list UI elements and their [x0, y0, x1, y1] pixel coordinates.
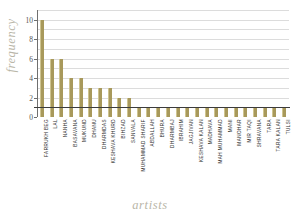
x-axis-category-label: MIR TAQI — [247, 119, 252, 143]
bar — [69, 78, 73, 117]
x-axis-category-label: BIHZAD — [121, 119, 126, 139]
x-axis-title: artists — [0, 198, 300, 213]
y-axis-title: frequency — [4, 11, 19, 81]
x-axis-category-label: BHURA — [160, 119, 165, 137]
x-axis-category-label: MUHAMMAD SHARIF — [141, 119, 146, 171]
y-axis-tick-label: 4 — [29, 74, 33, 83]
x-axis-category-label: MAH MUHAMMAD — [218, 119, 223, 163]
bars-group — [37, 10, 289, 117]
bar — [137, 107, 141, 117]
bar — [263, 107, 267, 117]
x-axis-category-label: TULSI — [286, 119, 291, 134]
y-axis-tick-mark — [34, 98, 37, 99]
x-axis-category-label: BASAVANA — [73, 119, 78, 147]
y-axis-tick-label: 10 — [26, 15, 34, 24]
plot-area: 0246810 — [37, 10, 289, 117]
y-axis-tick-mark — [34, 78, 37, 79]
x-axis-category-label: IBRAHIM — [179, 119, 184, 141]
bar — [88, 88, 92, 117]
x-axis-category-label: DHARMBAJ — [170, 119, 175, 148]
bar — [98, 88, 102, 117]
x-axis-category-label: NANHA — [63, 119, 68, 137]
bar — [40, 20, 44, 117]
y-axis-tick-label: 8 — [29, 35, 33, 44]
x-axis-category-label: MUKUND — [82, 119, 87, 142]
x-axis-category-label: JAGJIVAN — [189, 119, 194, 144]
x-axis-category-label: MANI — [228, 119, 233, 132]
x-axis-category-label: DHANU — [92, 119, 97, 138]
bar — [59, 59, 63, 117]
y-axis-tick-mark — [34, 59, 37, 60]
y-axis-tick-label: 6 — [29, 54, 33, 63]
x-axis-category-label: DHARMDAS — [102, 119, 107, 149]
bar — [79, 78, 83, 117]
x-axis-category-label: LAL — [53, 119, 58, 129]
bar — [272, 107, 276, 117]
bar — [146, 107, 150, 117]
x-axis-category-label: KESHAVA KHURD — [111, 119, 116, 163]
y-axis-tick-mark — [34, 20, 37, 21]
x-axis-category-label: SANVALA — [131, 119, 136, 143]
bar — [185, 107, 189, 117]
bar — [224, 107, 228, 117]
bar — [234, 107, 238, 117]
y-axis-tick-mark — [34, 117, 37, 118]
x-axis-category-label: MANOHAR — [237, 119, 242, 146]
y-axis-tick-label: 0 — [29, 113, 33, 122]
x-axis-category-label: KESHAVA KALAN — [199, 119, 204, 162]
bar — [282, 107, 286, 117]
bar — [205, 107, 209, 117]
bar — [195, 107, 199, 117]
y-axis-tick-label: 2 — [29, 93, 33, 102]
x-axis-category-label: TARA — [267, 119, 272, 133]
bar — [156, 107, 160, 117]
x-axis-category-label: ABDALLAH — [150, 119, 155, 147]
bar — [253, 107, 257, 117]
x-axis-line — [34, 107, 290, 108]
y-axis-tick-mark — [34, 39, 37, 40]
x-axis-category-label: SHRAVANA — [257, 119, 262, 147]
bar — [176, 107, 180, 117]
x-axis-category-label: MADHAVA — [208, 119, 213, 144]
bar-chart: frequency 0246810 FARRUKH BEGLALNANHABAS… — [0, 0, 300, 218]
x-axis-category-label: FARRUKH BEG — [44, 119, 49, 157]
x-axis-category-labels: FARRUKH BEGLALNANHABASAVANAMUKUNDDHANUDH… — [37, 119, 289, 197]
bar — [214, 107, 218, 117]
bar — [50, 59, 54, 117]
bar — [243, 107, 247, 117]
bar — [166, 107, 170, 117]
bar — [108, 88, 112, 117]
x-axis-category-label: TARA KALAN — [276, 119, 281, 152]
